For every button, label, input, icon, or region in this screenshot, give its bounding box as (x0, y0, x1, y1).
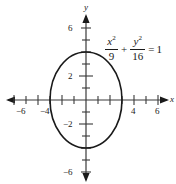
ellipse-equation: x2 9 + y2 16 = 1 (104, 36, 162, 62)
equation-right-side: 1 (156, 43, 162, 55)
equation-term2-numerator: y2 (132, 36, 144, 49)
equation-plus-sign: + (121, 43, 127, 55)
y-tick-label-2: 2 (68, 72, 73, 81)
y-tick-label-6: 6 (68, 24, 73, 33)
y-tick-label-neg2: −2 (63, 120, 73, 129)
equation-term-x-squared-over-9: x2 9 (105, 36, 118, 62)
equation-equals-sign: = (148, 43, 154, 55)
x-tick-label-4: 4 (131, 107, 136, 116)
y-tick-label-neg6: −6 (63, 168, 73, 177)
equation-term1-denominator: 9 (107, 50, 117, 63)
y-axis-down-arrowhead-icon (82, 173, 89, 182)
plot-canvas (0, 0, 176, 184)
x-tick-label-neg6: −6 (16, 107, 26, 116)
x-axis-label: x (170, 95, 174, 104)
x-axis-right-arrowhead-icon (160, 96, 169, 103)
ellipse-figure: y x −6 −4 4 6 6 2 −2 −6 x2 9 + y2 16 = 1 (0, 0, 176, 184)
x-tick-label-neg4: −4 (40, 107, 50, 116)
y-axis-up-arrowhead-icon (82, 14, 89, 23)
equation-term-y-squared-over-16: y2 16 (130, 36, 145, 62)
equation-term2-denominator: 16 (130, 50, 145, 63)
y-axis-label: y (84, 3, 88, 12)
x-tick-label-6: 6 (155, 107, 160, 116)
equation-term1-numerator: x2 (105, 36, 117, 49)
